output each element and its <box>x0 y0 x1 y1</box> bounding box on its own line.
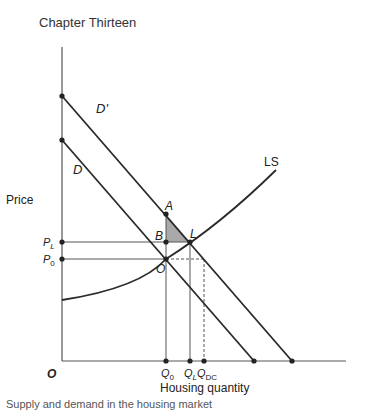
tick-qdc: QDC <box>197 367 217 382</box>
tick-p0: P0 <box>43 253 55 268</box>
x-axis-label: Housing quantity <box>160 381 249 395</box>
label-ls: LS <box>264 155 279 169</box>
tick-q0: Q0 <box>161 367 175 382</box>
y-axis-label: Price <box>6 193 34 207</box>
label-point-b: B <box>155 229 163 243</box>
label-point-a: A <box>164 199 173 213</box>
caption-cut-off: Supply and demand in the housing market <box>6 398 212 410</box>
label-d-prime: D' <box>96 101 108 116</box>
label-point-o: O <box>156 262 165 276</box>
demand-curve-d-prime <box>62 96 292 361</box>
demand-curve-d <box>62 140 254 361</box>
label-d: D <box>73 162 82 177</box>
origin-label: O <box>47 367 57 381</box>
label-point-l: L <box>190 227 197 241</box>
shaded-triangle <box>166 214 190 242</box>
tick-pl: PL <box>43 236 55 251</box>
tick-ql: QL <box>184 367 197 382</box>
